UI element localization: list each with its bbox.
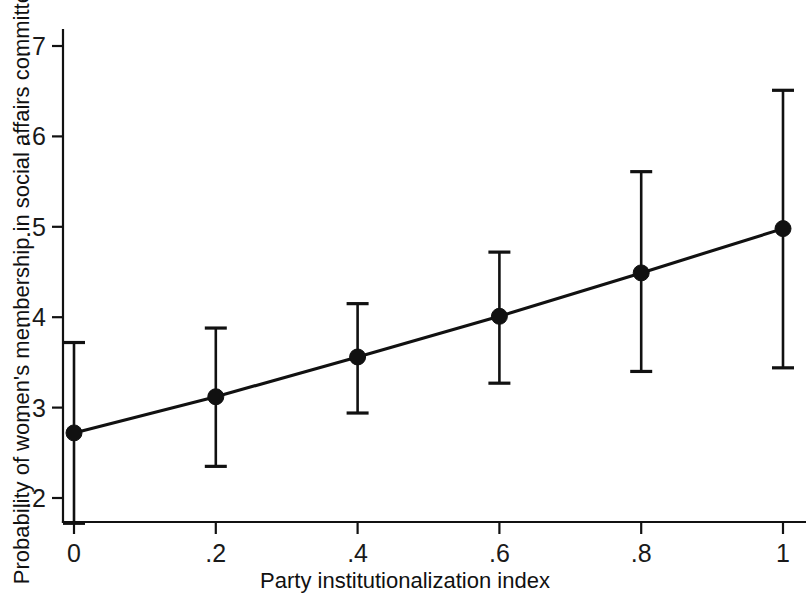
data-point-marker [350,349,366,365]
x-tick-label: 0 [67,539,81,567]
x-axis-title: Party institutionalization index [260,568,550,593]
y-axis-title: Probability of women's membership in soc… [9,0,34,584]
data-point-marker [491,308,507,324]
x-tick-label: 1 [776,539,790,567]
trend-line [74,229,783,433]
x-tick-label: .8 [631,539,652,567]
x-tick-label: .4 [347,539,368,567]
error-bar-plot: .2.3.4.5.6.7 0.2.4.6.81 Probability of w… [0,0,806,598]
x-tick-label: .2 [205,539,226,567]
data-point-marker [66,425,82,441]
error-bar-group [63,90,794,523]
chart-container: .2.3.4.5.6.7 0.2.4.6.81 Probability of w… [0,0,806,598]
data-point-marker [633,265,649,281]
data-point-marker [775,221,791,237]
data-point-marker [208,389,224,405]
x-tick-group: 0.2.4.6.81 [67,522,790,567]
x-tick-label: .6 [489,539,510,567]
